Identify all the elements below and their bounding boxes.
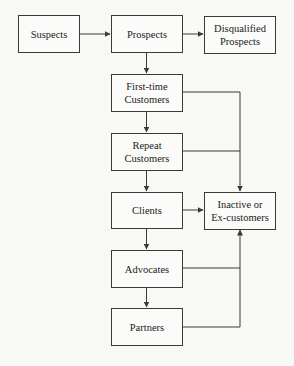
- node-label: Disqualified Prospects: [214, 22, 266, 48]
- node-label: First-time Customers: [125, 80, 170, 106]
- node-first-time-customers: First-time Customers: [111, 74, 183, 112]
- node-advocates: Advocates: [111, 250, 183, 288]
- node-repeat-customers: Repeat Customers: [111, 133, 183, 171]
- node-suspects: Suspects: [18, 15, 80, 53]
- node-label: Suspects: [31, 28, 68, 41]
- node-inactive-ex-customers: Inactive or Ex-customers: [204, 192, 276, 230]
- node-label: Repeat Customers: [125, 139, 170, 165]
- node-clients: Clients: [111, 192, 183, 229]
- node-label: Advocates: [125, 263, 169, 276]
- connector-firsttime-inactive: [182, 92, 240, 191]
- connector-partners-inactive: [182, 230, 240, 327]
- node-disqualified-prospects: Disqualified Prospects: [204, 16, 276, 54]
- node-label: Clients: [132, 204, 162, 217]
- node-label: Inactive or Ex-customers: [211, 198, 269, 224]
- node-label: Prospects: [127, 28, 167, 41]
- node-prospects: Prospects: [111, 15, 183, 53]
- node-label: Partners: [130, 321, 164, 334]
- node-partners: Partners: [111, 308, 183, 346]
